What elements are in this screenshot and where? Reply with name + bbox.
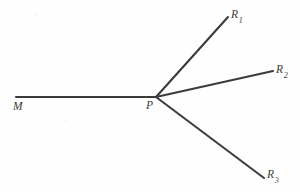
ray-P-R1 bbox=[156, 17, 228, 97]
label-point-r2: R2 bbox=[276, 64, 287, 78]
label-r3-base: R bbox=[267, 168, 274, 180]
label-r2-base: R bbox=[276, 63, 283, 75]
label-p-text: P bbox=[146, 99, 153, 111]
diagram-canvas bbox=[0, 0, 300, 192]
label-r1-subscript: 1 bbox=[239, 16, 243, 25]
label-point-r1: R1 bbox=[231, 9, 242, 23]
ray-diagram-figure: M P R1 R2 R3 bbox=[0, 0, 300, 192]
label-point-p: P bbox=[146, 100, 153, 112]
ray-P-R2 bbox=[156, 71, 273, 97]
ray-P-R3 bbox=[156, 97, 264, 178]
label-m-text: M bbox=[13, 100, 23, 112]
label-point-m: M bbox=[13, 101, 23, 113]
label-r3-subscript: 3 bbox=[275, 176, 279, 185]
label-r1-base: R bbox=[231, 8, 238, 20]
label-point-r3: R3 bbox=[267, 169, 278, 183]
label-r2-subscript: 2 bbox=[284, 71, 288, 80]
